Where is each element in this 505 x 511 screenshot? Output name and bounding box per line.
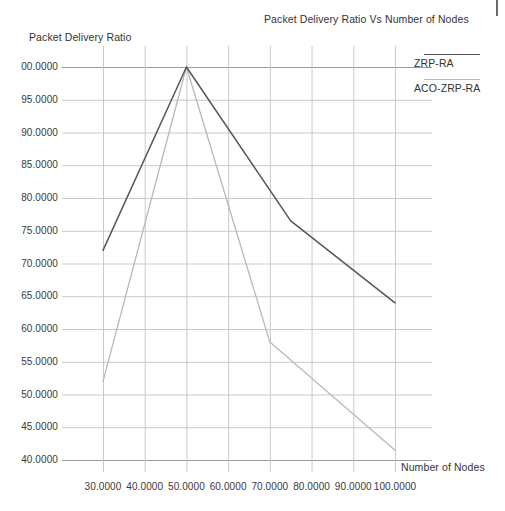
series-line-zrp-ra — [103, 67, 395, 303]
x-tick-label: 60.0000 — [210, 481, 247, 492]
y-tick-label: 65.0000 — [0, 290, 58, 301]
series-line-aco-zrp-ra — [103, 67, 395, 450]
chart-page: Packet Delivery Ratio Vs Number of Nodes… — [0, 0, 505, 511]
y-tick-label: 50.0000 — [0, 389, 58, 400]
y-tick-label: 90.0000 — [0, 127, 58, 138]
y-tick-label: 60.0000 — [0, 323, 58, 334]
y-tick-label: 40.0000 — [0, 454, 58, 465]
x-tick-label: 30.0000 — [85, 481, 122, 492]
x-tick-label: 70.0000 — [251, 481, 288, 492]
y-tick-label: 80.0000 — [0, 192, 58, 203]
y-tick-label: 85.0000 — [0, 159, 58, 170]
legend-label: ZRP-RA — [414, 57, 502, 69]
legend-swatch-line — [424, 79, 480, 80]
x-tick-label: 90.0000 — [335, 481, 372, 492]
legend-entry: ACO-ZRP-RA — [414, 79, 502, 94]
y-tick-label: 55.0000 — [0, 356, 58, 367]
legend-label: ACO-ZRP-RA — [414, 82, 502, 94]
x-tick-label: 50.0000 — [168, 481, 205, 492]
vertical-gridlines — [104, 46, 396, 472]
y-tick-label: 75.0000 — [0, 225, 58, 236]
legend-swatch-line — [424, 54, 480, 55]
chart-legend: ZRP-RAACO-ZRP-RA — [414, 54, 502, 104]
legend-entry: ZRP-RA — [414, 54, 502, 69]
data-series-layer — [103, 67, 395, 450]
y-tick-label: 70.0000 — [0, 258, 58, 269]
y-tick-label: 95.0000 — [0, 94, 58, 105]
y-tick-label: 45.0000 — [0, 421, 58, 432]
horizontal-gridlines — [62, 68, 432, 461]
x-tick-label: 80.0000 — [293, 481, 330, 492]
x-tick-label: 40.0000 — [126, 481, 163, 492]
x-tick-label: 100.0000 — [374, 481, 417, 492]
y-tick-label: 00.0000 — [0, 61, 58, 72]
